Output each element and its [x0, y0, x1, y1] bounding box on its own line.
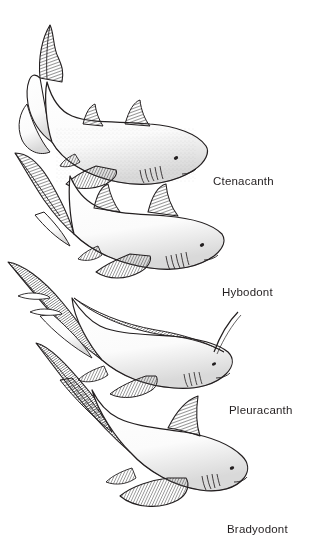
label-pleuracanth: Pleuracanth: [229, 405, 293, 417]
shark-pleuracanth: [8, 262, 241, 397]
pectoral-fin: [96, 254, 151, 278]
pelvic-fin: [78, 246, 102, 260]
shark-illustrations: [0, 0, 310, 553]
pectoral-fin: [120, 478, 188, 506]
shark-ctenacanth: [19, 25, 207, 189]
label-bradyodont: Bradyodont: [227, 524, 288, 536]
label-hybodont: Hybodont: [222, 287, 273, 299]
dorsal-fin-second: [148, 184, 178, 216]
dorsal-fin-first: [83, 104, 103, 126]
dorsal-fin-first: [94, 184, 120, 212]
illustration-plate: Ctenacanth Hybodont Pleuracanth Bradyodo…: [0, 0, 310, 553]
dorsal-fin-second: [125, 100, 150, 126]
pelvic-fin: [78, 366, 108, 382]
pelvic-fin: [106, 468, 136, 484]
label-ctenacanth: Ctenacanth: [213, 176, 274, 188]
